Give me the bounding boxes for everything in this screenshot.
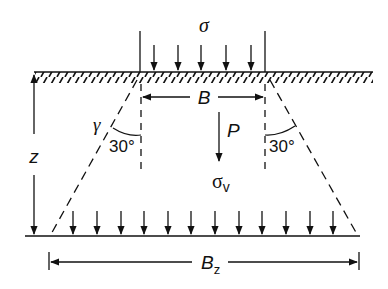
angle-right-label: 30° bbox=[269, 137, 295, 156]
vertical-stress-label: σv bbox=[212, 170, 230, 195]
surface-load-label: σ bbox=[199, 14, 210, 36]
spread-width-label: Bz bbox=[201, 252, 220, 277]
point-load-label: P bbox=[227, 120, 240, 141]
footing-load bbox=[140, 31, 265, 72]
ground-surface bbox=[34, 72, 373, 83]
angle-arcs bbox=[113, 126, 295, 135]
unit-weight-label: γ bbox=[93, 114, 101, 135]
angle-left-label: 30° bbox=[109, 137, 135, 156]
depth-label: z bbox=[28, 146, 39, 167]
depth-stress-arrows bbox=[73, 211, 333, 234]
footing-width-label: B bbox=[198, 87, 211, 108]
stress-distribution-diagram: σ B γ 30° 30° P σv bbox=[0, 0, 388, 289]
